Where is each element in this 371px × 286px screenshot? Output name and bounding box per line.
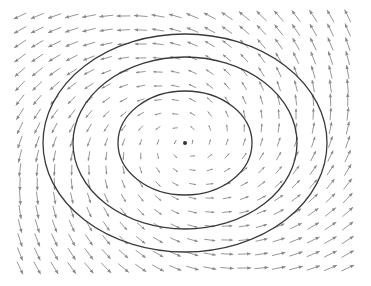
arrow-head-icon <box>123 185 125 188</box>
arrow-head-icon <box>244 139 246 141</box>
equilibrium-point <box>183 141 187 145</box>
arrow-head-icon <box>151 14 155 17</box>
arrow-head-icon <box>135 57 138 60</box>
arrow-head-icon <box>243 124 245 126</box>
arrow-head-icon <box>71 214 74 218</box>
arrow-head-icon <box>212 197 214 199</box>
arrow-head-icon <box>264 252 268 255</box>
arrow-head-icon <box>246 224 249 227</box>
arrow-head-icon <box>136 71 139 74</box>
arrow-head-icon <box>119 86 122 88</box>
arrow-head-icon <box>345 51 348 55</box>
arrow-head-icon <box>330 136 333 140</box>
arrow-head-icon <box>313 137 316 140</box>
arrow-head-icon <box>195 253 199 256</box>
arrow-head-icon <box>137 100 139 102</box>
arrow-head-icon <box>48 15 52 18</box>
arrow-head-icon <box>135 43 138 46</box>
arrow-head-icon <box>221 12 225 16</box>
arrow-head-icon <box>49 72 53 75</box>
arrow-head-icon <box>312 108 315 111</box>
arrow-head-icon <box>36 187 39 191</box>
arrow-head-icon <box>226 125 228 127</box>
arrow-head-icon <box>316 265 320 268</box>
arrow-head-icon <box>82 15 86 18</box>
arrow-head-icon <box>122 158 124 160</box>
arrow-head-icon <box>186 13 190 16</box>
arrow-head-icon <box>212 211 215 213</box>
arrow-head-icon <box>275 39 278 43</box>
arrow-head-icon <box>142 268 146 272</box>
arrow-head-icon <box>88 200 91 203</box>
arrow-head-icon <box>140 143 142 145</box>
arrow-head-icon <box>53 200 56 204</box>
arrow-head-icon <box>35 144 38 148</box>
arrow-head-icon <box>70 172 73 175</box>
arrow-head-icon <box>328 51 331 55</box>
arrow-head-icon <box>345 37 348 41</box>
arrow-head-icon <box>311 66 314 70</box>
arrow-head-icon <box>230 239 233 242</box>
arrow-head-icon <box>330 122 333 126</box>
arrow-head-icon <box>70 144 73 147</box>
arrow-head-icon <box>278 138 280 141</box>
arrow-head-icon <box>153 71 156 73</box>
arrow-head-icon <box>212 253 216 256</box>
arrow-head-icon <box>229 225 232 228</box>
arrow-head-icon <box>195 267 199 270</box>
arrow-head-icon <box>329 94 332 98</box>
arrow-head-icon <box>311 80 314 84</box>
arrow-head-icon <box>230 253 234 256</box>
arrow-head-icon <box>347 136 350 140</box>
arrow-head-icon <box>140 157 142 159</box>
arrow-head-icon <box>154 85 156 87</box>
arrow-head-icon <box>134 14 138 17</box>
arrow-head-icon <box>18 187 22 191</box>
arrow-head-icon <box>281 238 285 241</box>
arrow-head-icon <box>54 228 57 232</box>
arrow-head-icon <box>105 143 107 146</box>
arrow-head-icon <box>247 266 251 270</box>
arrow-head-icon <box>83 43 87 46</box>
arrow-head-icon <box>282 266 286 270</box>
arrow-head-icon <box>260 96 262 99</box>
arrow-head-icon <box>329 80 332 84</box>
arrow-head-icon <box>34 115 37 119</box>
arrow-head-icon <box>88 172 91 175</box>
arrow-head-icon <box>261 138 263 141</box>
arrow-head-icon <box>117 29 121 32</box>
arrow-head-icon <box>315 208 319 211</box>
arrow-head-icon <box>277 81 280 84</box>
arrow-head-icon <box>140 171 142 173</box>
vector-field-plot <box>0 0 371 286</box>
arrow-head-icon <box>346 65 349 69</box>
arrow-head-icon <box>36 215 39 219</box>
arrow-head-icon <box>332 222 336 226</box>
arrow-head-icon <box>117 14 121 17</box>
arrow-head-icon <box>14 44 18 48</box>
arrow-head-icon <box>17 144 20 148</box>
arrow-head-icon <box>100 29 104 32</box>
arrow-head-icon <box>105 172 107 175</box>
arrow-head-icon <box>19 201 23 205</box>
arrow-head-icon <box>247 252 251 255</box>
arrow-head-icon <box>65 29 69 32</box>
arrow-head-icon <box>52 144 55 147</box>
arrow-head-icon <box>152 28 156 31</box>
arrow-head-icon <box>329 108 332 112</box>
arrow-head-icon <box>292 24 296 28</box>
arrow-head-icon <box>312 123 315 126</box>
arrow-head-icon <box>294 66 297 70</box>
arrow-head-icon <box>277 109 280 112</box>
arrow-head-icon <box>212 267 216 270</box>
arrow-head-icon <box>72 270 76 274</box>
arrow-head-icon <box>19 215 22 219</box>
arrow-head-icon <box>37 228 40 232</box>
arrow-head-icon <box>53 172 56 175</box>
arrow-head-icon <box>346 93 350 97</box>
arrow-head-icon <box>298 251 302 254</box>
arrow-head-icon <box>31 58 35 62</box>
arrow-head-icon <box>295 109 298 112</box>
arrow-head-icon <box>19 242 22 246</box>
arrow-head-icon <box>87 144 89 147</box>
